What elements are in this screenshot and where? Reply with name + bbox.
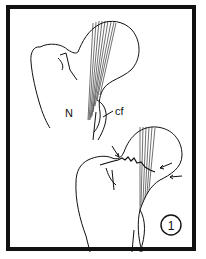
upper-femur-drawing [31,21,139,140]
diagram-canvas: N cf 1 [0,0,206,259]
panel-number: 1 [168,219,175,233]
label-neck: N [65,107,73,119]
label-cf: cf [115,105,125,117]
panel-number-badge: 1 [161,215,181,235]
